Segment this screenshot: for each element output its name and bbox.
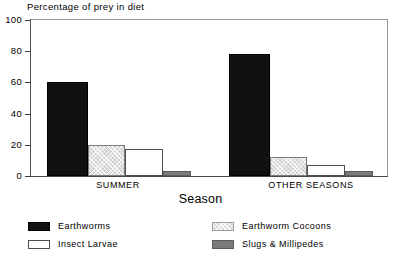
legend-item-slugs-millipedes: Slugs & Millipedes <box>212 239 324 250</box>
legend-swatch-insect-larvae-icon <box>28 240 50 249</box>
legend-item-earthworms: Earthworms <box>28 221 111 232</box>
legend-swatch-earthworms-icon <box>28 222 50 231</box>
legend-label-insect-larvae: Insect Larvae <box>58 239 118 250</box>
bar-summer-earthworm-cocoons <box>88 145 125 176</box>
legend-label-slugs-millipedes: Slugs & Millipedes <box>242 239 324 250</box>
legend-item-earthworm-cocoons: Earthworm Cocoons <box>212 221 331 232</box>
bar-other-seasons-slugs-millipedes <box>345 171 373 176</box>
bar-other-seasons-earthworms <box>229 54 270 176</box>
bar-summer-insect-larvae <box>125 149 163 176</box>
legend-swatch-slugs-millipedes-icon <box>212 240 234 249</box>
bar-other-seasons-earthworm-cocoons <box>270 157 307 176</box>
bar-summer-earthworms <box>47 82 88 176</box>
legend-item-insect-larvae: Insect Larvae <box>28 239 118 250</box>
bar-summer-slugs-millipedes <box>163 171 191 176</box>
bar-other-seasons-insect-larvae <box>307 165 345 176</box>
legend-label-earthworms: Earthworms <box>58 221 111 232</box>
chart-legend: Earthworms Insect Larvae Earthworm Cocoo… <box>0 218 401 258</box>
x-axis-group-label-other-seasons: OTHER SEASONS <box>241 180 381 190</box>
x-axis-title: Season <box>0 192 401 206</box>
x-axis-group-label-summer: SUMMER <box>58 180 178 190</box>
legend-swatch-earthworm-cocoons-icon <box>212 222 234 231</box>
bar-chart: Percentage of prey in diet 100 80 60 40 … <box>0 0 401 258</box>
legend-label-earthworm-cocoons: Earthworm Cocoons <box>242 221 331 232</box>
